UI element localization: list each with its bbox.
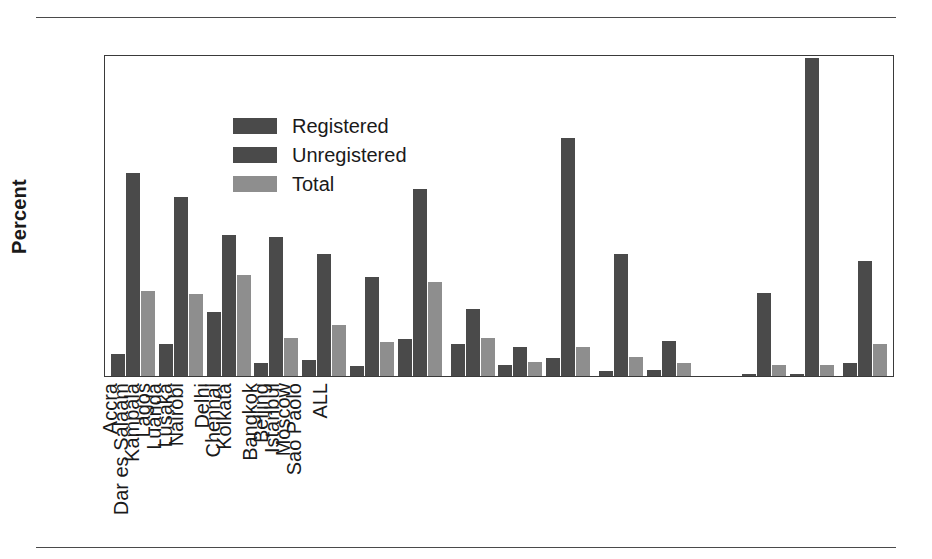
bar-group: [111, 56, 155, 376]
bar-total: [873, 344, 887, 376]
bar-group: [350, 56, 394, 376]
bar-registered: [546, 358, 560, 376]
bar-total: [284, 338, 298, 376]
bar-unregistered: [662, 341, 676, 376]
legend-label-unregistered: Unregistered: [292, 145, 407, 165]
bar-registered: [207, 312, 221, 376]
top-rule: [36, 17, 896, 18]
bar-registered: [302, 360, 316, 376]
bar-registered: [742, 374, 756, 376]
bar-total: [677, 363, 691, 376]
bar-unregistered: [126, 173, 140, 376]
bar-total: [332, 325, 346, 376]
x-tick-label-text: Kolkata: [214, 383, 234, 450]
legend-item-registered: Registered: [233, 116, 407, 136]
bar-group: [451, 56, 495, 376]
bar-total: [820, 365, 834, 376]
bar-group: [302, 56, 346, 376]
bar-unregistered: [561, 138, 575, 376]
bar-unregistered: [317, 254, 331, 376]
x-axis-labels: AccraDar es SalaamKampalaLagosLuandaLusa…: [104, 377, 894, 537]
bar-total: [528, 362, 542, 376]
bar-unregistered: [513, 347, 527, 376]
bar-total: [481, 338, 495, 376]
bar-total: [237, 275, 251, 376]
bar-registered: [159, 344, 173, 376]
bar-registered: [843, 363, 857, 376]
bar-group: [695, 56, 739, 376]
bar-unregistered: [365, 277, 379, 376]
legend: Registered Unregistered Total: [233, 116, 407, 194]
bar-total: [629, 357, 643, 376]
bar-unregistered: [466, 309, 480, 376]
bottom-rule: [36, 547, 896, 548]
bar-group: [843, 56, 887, 376]
legend-swatch-registered: [233, 118, 277, 134]
bar-registered: [254, 363, 268, 376]
bar-total: [772, 365, 786, 376]
bar-registered: [790, 374, 804, 376]
bar-group: [647, 56, 691, 376]
x-tick-label-text: ALL: [310, 383, 330, 419]
bar-group: [207, 56, 251, 376]
bar-registered: [398, 339, 412, 376]
bar-registered: [111, 354, 125, 376]
bar-unregistered: [222, 235, 236, 376]
bar-registered: [350, 366, 364, 376]
bar-unregistered: [174, 197, 188, 376]
legend-label-total: Total: [292, 174, 334, 194]
legend-item-total: Total: [233, 174, 407, 194]
bar-group: [790, 56, 834, 376]
legend-item-unregistered: Unregistered: [233, 145, 407, 165]
bar-total: [189, 294, 203, 376]
legend-label-registered: Registered: [292, 116, 389, 136]
x-tick-label-text: Sao Paolo: [284, 383, 304, 475]
bar-unregistered: [413, 189, 427, 376]
bar-group: [599, 56, 643, 376]
bar-registered: [451, 344, 465, 376]
bar-total: [380, 342, 394, 376]
bar-total: [576, 347, 590, 376]
bar-total: [428, 282, 442, 376]
bar-total: [141, 291, 155, 376]
y-axis: 020406080100: [0, 0, 104, 432]
bar-registered: [498, 365, 512, 376]
bar-group: [498, 56, 542, 376]
bar-groups: [111, 56, 887, 376]
bar-group: [254, 56, 298, 376]
figure: Percent 020406080100 Registered Unregist…: [0, 0, 932, 559]
plot-area: Registered Unregistered Total: [104, 55, 894, 377]
bar-unregistered: [614, 254, 628, 376]
bar-unregistered: [858, 261, 872, 376]
bar-registered: [599, 371, 613, 376]
bar-unregistered: [757, 293, 771, 376]
bar-group: [398, 56, 442, 376]
legend-swatch-unregistered: [233, 147, 277, 163]
bar-registered: [647, 370, 661, 376]
bar-group: [742, 56, 786, 376]
bar-group: [159, 56, 203, 376]
x-tick-label-text: Nairobi: [166, 383, 186, 446]
bar-unregistered: [805, 58, 819, 376]
legend-swatch-total: [233, 176, 277, 192]
bar-unregistered: [269, 237, 283, 376]
bar-group: [546, 56, 590, 376]
